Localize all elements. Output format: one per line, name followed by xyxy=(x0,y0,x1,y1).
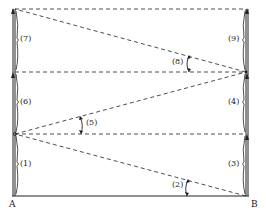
angle-label-5: (5) xyxy=(86,119,97,127)
segment-label-3: (3) xyxy=(228,160,239,168)
angle-label-2: (2) xyxy=(172,181,183,189)
arrow-left-mid-icon xyxy=(11,72,15,78)
brace-4 xyxy=(243,74,246,132)
arrow-left-top-icon xyxy=(11,8,15,14)
segment-label-6: (6) xyxy=(20,98,31,106)
brace-1 xyxy=(16,136,19,194)
segment-label-1: (1) xyxy=(20,160,31,168)
point-label-b: B xyxy=(251,200,258,209)
point-label-a: A xyxy=(9,200,16,209)
brace-6 xyxy=(16,74,19,132)
zigzag-diagram xyxy=(0,0,266,212)
reflection-point-right xyxy=(245,71,248,74)
segment-label-9: (9) xyxy=(228,35,239,43)
diagonal-b-to-left xyxy=(15,134,246,196)
angle-arrow-5-bottom-icon xyxy=(79,130,83,134)
segment-label-7: (7) xyxy=(20,35,31,43)
brace-7 xyxy=(16,11,19,70)
angle-label-8: (8) xyxy=(172,58,183,66)
diagonal-left-to-right xyxy=(15,72,246,134)
brace-9 xyxy=(243,11,246,70)
segment-label-4: (4) xyxy=(228,98,239,106)
diagonal-right-to-top-left xyxy=(15,9,246,72)
brace-3 xyxy=(243,136,246,194)
angle-arrow-8-bottom-icon xyxy=(187,68,191,72)
